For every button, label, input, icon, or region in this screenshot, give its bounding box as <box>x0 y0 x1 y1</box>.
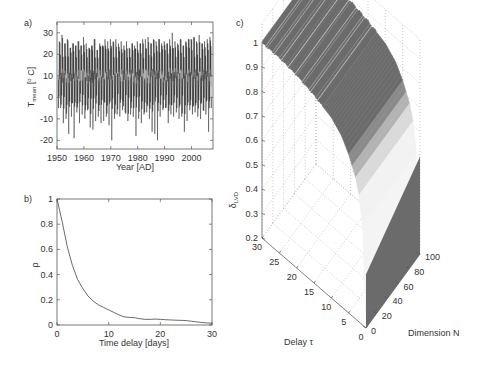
grid-line <box>297 194 351 268</box>
tau-tick-label: 30 <box>252 242 262 252</box>
panel-b: b) 00.20.40.60.81 0102030 Time delay [da… <box>24 194 217 348</box>
z-tick-label: 0.3 <box>245 209 258 219</box>
panel-b-label: b) <box>24 194 32 204</box>
grid-line <box>262 115 316 189</box>
y-tick-label: 10 <box>43 71 53 81</box>
y-tick-label: 0 <box>48 320 53 330</box>
n-tick-label: 100 <box>425 252 440 262</box>
tau-tick <box>314 281 316 283</box>
z-tick <box>262 67 265 68</box>
tau-tick-label: 0 <box>358 332 363 342</box>
x-tick-label: 1990 <box>155 153 175 163</box>
tau-tick <box>279 251 281 253</box>
grid-line <box>314 209 368 283</box>
y-tick-label: 20 <box>43 49 53 59</box>
z-tick <box>262 140 265 141</box>
grid-line <box>279 179 333 253</box>
y-tick-label: -20 <box>40 135 53 145</box>
z-tick-label: 0.4 <box>245 184 258 194</box>
panel-c-label: c) <box>236 18 244 28</box>
n-tick-label: 20 <box>382 311 392 321</box>
y-tick-label: 1 <box>48 194 53 204</box>
panel-b-axes-box <box>57 199 212 325</box>
grid-line <box>262 91 316 165</box>
tau-tick <box>331 296 333 298</box>
tau-tick-label: 5 <box>341 317 346 327</box>
y-tick-label: 0.2 <box>40 295 53 305</box>
y-tick-label: 30 <box>43 28 53 38</box>
mean-band <box>58 69 212 86</box>
tau-tick-label: 15 <box>304 287 314 297</box>
z-tick <box>262 189 265 190</box>
x-tick-label: 1960 <box>74 153 94 163</box>
z-tick <box>262 116 265 117</box>
y-tick-label: -10 <box>40 114 53 124</box>
panel-b-xlabel: Time delay [days] <box>99 338 169 348</box>
y-tick-label: 0.4 <box>40 270 53 280</box>
x-tick-label: 2000 <box>181 153 201 163</box>
z-tick-label: 0.8 <box>245 87 258 97</box>
y-tick-label: 0.6 <box>40 244 53 254</box>
tau-tick-label: 10 <box>321 302 331 312</box>
panel-a: a) -20-100102030 19501960197019801990200… <box>24 18 213 172</box>
panel-a-label: a) <box>24 18 32 28</box>
grid-line <box>262 140 316 214</box>
n-tick-label: 60 <box>403 282 413 292</box>
z-tick <box>262 214 265 215</box>
z-tick-label: 0.9 <box>245 62 258 72</box>
z-tick-label: 0.6 <box>245 135 258 145</box>
y-tick-label: 0.8 <box>40 219 53 229</box>
tau-tick-label: 20 <box>287 272 297 282</box>
n-tick-label: 80 <box>414 267 424 277</box>
n-tick-label: 0 <box>371 326 376 336</box>
z-tick <box>262 165 265 166</box>
y-tick-label: 0 <box>48 92 53 102</box>
tau-tick <box>349 311 351 313</box>
x-tick-label: 30 <box>207 329 217 339</box>
z-tick <box>262 92 265 93</box>
grid-line <box>262 164 316 238</box>
panel-c-zlabel: δLVD <box>228 191 239 208</box>
panel-c: c) 0.20.30.40.50.60.70.80.91051015202530… <box>228 0 460 347</box>
figure: a) -20-100102030 19501960197019801990200… <box>0 0 477 367</box>
panel-c-ylabel: Dimension N <box>408 328 460 338</box>
z-tick-label: 1 <box>253 38 258 48</box>
x-tick-label: 1950 <box>47 153 67 163</box>
z-tick-label: 0.5 <box>245 160 258 170</box>
tau-tick <box>297 266 299 268</box>
n-tick-label: 40 <box>393 296 403 306</box>
x-tick-label: 0 <box>54 329 59 339</box>
panel-a-xlabel: Year [AD] <box>116 162 154 172</box>
panel-a-ylabel: Tmean [o C] <box>26 67 37 107</box>
z-tick-label: 0.7 <box>245 111 258 121</box>
tau-tick-label: 25 <box>269 257 279 267</box>
panel-b-ylabel: ρ <box>30 262 40 267</box>
panel-c-xlabel: Delay τ <box>284 337 314 347</box>
